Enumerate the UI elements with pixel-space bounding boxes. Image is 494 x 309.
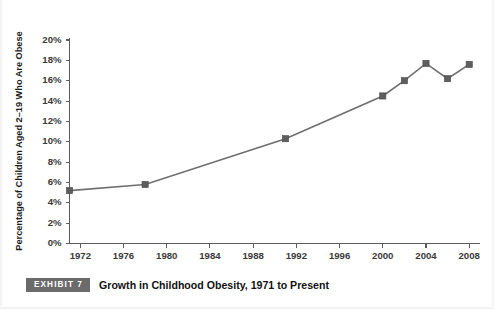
obesity-line-chart: Percentage of Children Aged 2–19 Who Are… [0, 0, 494, 269]
exhibit-caption-inner: EXHIBIT 7 Growth in Childhood Obesity, 1… [26, 278, 329, 292]
data-point-marker [66, 187, 72, 193]
x-tick-label: 1980 [156, 250, 177, 261]
y-tick-label: 0% [48, 237, 62, 248]
data-point-marker [423, 60, 429, 66]
data-point-marker [142, 181, 148, 187]
exhibit-caption-text: Growth in Childhood Obesity, 1971 to Pre… [99, 279, 329, 291]
x-axis-ticks: 1972197619801984198819921996200020042008 [70, 244, 481, 261]
y-tick-label: 8% [48, 156, 62, 167]
y-tick-label: 4% [48, 196, 62, 207]
y-axis-title-label: Percentage of Children Aged 2–19 Who Are… [14, 31, 24, 250]
exhibit-number-badge: EXHIBIT 7 [26, 278, 90, 292]
x-tick-label: 1992 [286, 250, 307, 261]
y-tick-label: 14% [42, 95, 62, 106]
x-tick-label: 1996 [329, 250, 350, 261]
series-line [70, 63, 470, 190]
exhibit-caption: EXHIBIT 7 Growth in Childhood Obesity, 1… [0, 272, 494, 309]
chart-figure: Percentage of Children Aged 2–19 Who Are… [0, 0, 494, 269]
data-point-marker [401, 78, 407, 84]
y-axis-title: Percentage of Children Aged 2–19 Who Are… [14, 31, 24, 250]
y-tick-label: 16% [42, 74, 62, 85]
data-point-marker [282, 136, 288, 142]
y-tick-label: 10% [42, 135, 62, 146]
y-tick-label: 20% [42, 34, 62, 45]
x-tick-label: 1984 [199, 250, 221, 261]
y-tick-label: 2% [48, 217, 62, 228]
x-tick-label: 1976 [113, 250, 134, 261]
x-tick-label: 1972 [70, 250, 91, 261]
y-tick-label: 6% [48, 176, 62, 187]
data-point-marker [444, 76, 450, 82]
y-tick-label: 18% [42, 54, 62, 65]
y-axis-ticks: 0%2%4%6%8%10%12%14%16%18%20% [42, 34, 69, 249]
chart-series [66, 60, 472, 193]
x-tick-label: 2004 [415, 250, 437, 261]
y-tick-label: 12% [42, 115, 62, 126]
page-root: Percentage of Children Aged 2–19 Who Are… [0, 0, 494, 309]
x-tick-label: 1988 [242, 250, 264, 261]
x-tick-label: 2008 [459, 250, 481, 261]
data-point-marker [466, 61, 472, 67]
data-point-marker [380, 93, 386, 99]
x-tick-label: 2000 [372, 250, 393, 261]
